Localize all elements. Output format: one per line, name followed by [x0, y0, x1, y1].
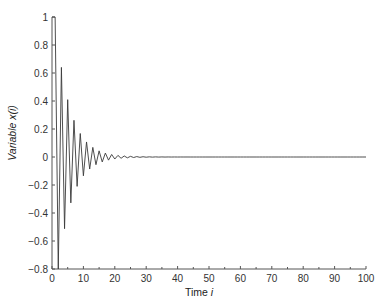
x-axis-label-text: Time [185, 286, 208, 298]
y-tick-label: −0.2 [28, 180, 48, 191]
plot-area: −0.8−0.6−0.4−0.200.20.40.60.81 010203040… [28, 12, 375, 285]
x-axis-label-var: i [211, 286, 214, 298]
y-tick-label: 0 [42, 152, 48, 163]
y-tick-label: 0.4 [34, 96, 48, 107]
x-tick-label: 30 [141, 273, 153, 284]
x-tick-label: 60 [235, 273, 247, 284]
series-line [52, 17, 366, 269]
y-tick-label: 1 [42, 12, 48, 23]
x-tick-label: 40 [172, 273, 184, 284]
y-axis-label-text: Variable x( [6, 110, 18, 161]
x-tick-label: 100 [358, 273, 375, 284]
y-tick-label: 0.8 [34, 40, 48, 51]
y-axis-label: Variable x(i) [6, 105, 18, 161]
y-tick-label: −0.8 [28, 264, 48, 275]
x-axis-label: Time i [185, 286, 214, 298]
x-tick-label: 50 [203, 273, 215, 284]
y-ticks: −0.8−0.6−0.4−0.200.20.40.60.81 [28, 12, 55, 275]
x-tick-label: 70 [266, 273, 278, 284]
x-tick-label: 90 [329, 273, 341, 284]
x-tick-label: 0 [49, 273, 55, 284]
y-tick-label: 0.6 [34, 68, 48, 79]
x-tick-label: 10 [78, 273, 90, 284]
y-tick-label: 0.2 [34, 124, 48, 135]
series-layer [52, 17, 366, 269]
x-tick-label: 80 [298, 273, 310, 284]
y-tick-label: −0.6 [28, 236, 48, 247]
x-tick-label: 20 [109, 273, 121, 284]
y-tick-label: −0.4 [28, 208, 48, 219]
line-chart: −0.8−0.6−0.4−0.200.20.40.60.81 010203040… [0, 0, 384, 305]
